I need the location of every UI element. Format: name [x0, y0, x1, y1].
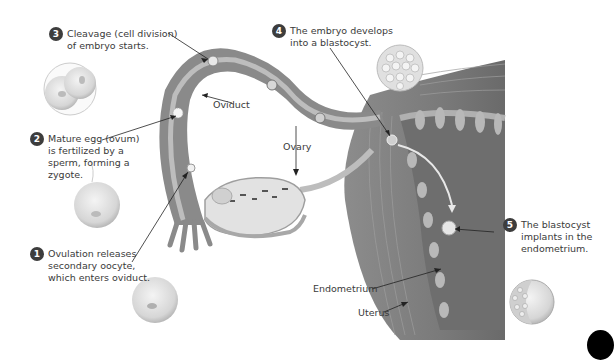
step-text: Ovulation releases secondary oocyte, whi…	[48, 248, 150, 284]
step-1-annotation: 1 Ovulation releases secondary oocyte, w…	[30, 248, 150, 284]
page-marker-dot	[587, 330, 614, 360]
oviduct-label: Oviduct	[213, 99, 250, 111]
ovary-label: Ovary	[283, 141, 311, 153]
step-badge: 1	[30, 247, 44, 261]
step-text: The blastocyst implants in the endometri…	[521, 219, 592, 255]
endometrium-label: Endometrium	[313, 283, 378, 295]
step-badge: 3	[49, 27, 63, 41]
step-3-annotation: 3 Cleavage (cell division) of embryo sta…	[49, 28, 177, 52]
step-text: The embryo develops into a blastocyst.	[290, 25, 393, 49]
step-5-annotation: 5 The blastocyst implants in the endomet…	[503, 219, 592, 255]
ovary-illustration	[205, 178, 305, 237]
step-2-annotation: 2 Mature egg (ovum) is fertilized by a s…	[30, 133, 139, 181]
uterus-label: Uterus	[358, 307, 389, 319]
step-badge: 4	[272, 24, 286, 38]
step-badge: 2	[30, 132, 44, 146]
uterus-illustration	[344, 60, 505, 340]
step-badge: 5	[503, 218, 517, 232]
step-4-annotation: 4 The embryo develops into a blastocyst.	[272, 25, 393, 49]
step-text: Mature egg (ovum) is fertilized by a spe…	[48, 133, 139, 181]
step-text: Cleavage (cell division) of embryo start…	[67, 28, 177, 52]
